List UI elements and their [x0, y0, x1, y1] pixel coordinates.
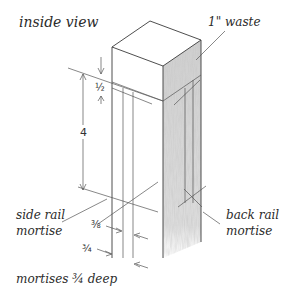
- dim-top-offset-label: ½: [95, 82, 105, 93]
- dim-mortise-offset-label: ¾: [82, 243, 92, 254]
- dim-mortise-length: 4: [76, 74, 90, 190]
- side-rail-label-line2: mortise: [16, 224, 62, 238]
- dim-mortise-width: ⅜: [91, 219, 148, 239]
- back-rail-label-line2: mortise: [226, 224, 272, 238]
- depth-note-label: mortises ¾ deep: [16, 272, 118, 286]
- dim-mortise-length-label: 4: [80, 126, 87, 139]
- side-rail-label-line1: side rail: [16, 208, 65, 222]
- dim-mortise-offset: ¾: [82, 243, 148, 268]
- dim-mortise-width-label: ⅜: [91, 219, 101, 230]
- title-label: inside view: [19, 14, 99, 30]
- waste-label: 1" waste: [208, 15, 260, 29]
- leg-mortise-diagram: inside view: [0, 0, 288, 298]
- right-face-shaded: [163, 40, 201, 258]
- back-rail-label-line1: back rail: [226, 208, 279, 222]
